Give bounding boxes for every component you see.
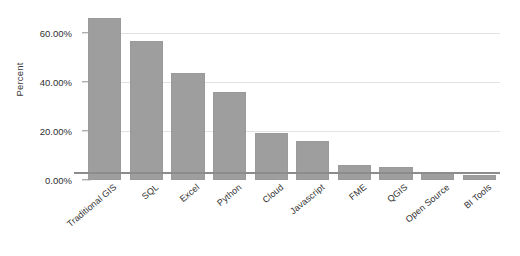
x-tick-label: Traditional GIS — [65, 182, 118, 229]
x-axis-labels: Traditional GISSQLExcelPythonCloudJavasc… — [84, 182, 500, 256]
y-axis-ticks: 0.00%20.00%40.00%60.00% — [8, 8, 72, 180]
bar — [171, 73, 204, 180]
x-tick-label: SQL — [140, 182, 160, 201]
x-tick-label: Cloud — [260, 182, 285, 205]
y-tick-label: 20.00% — [12, 125, 72, 136]
x-tick-label: Excel — [178, 182, 202, 204]
x-tick-label: BI Tools — [461, 182, 492, 211]
bar — [296, 141, 329, 180]
y-tick-label: 60.00% — [12, 27, 72, 38]
x-tick-label: Python — [215, 182, 243, 208]
x-axis-line — [74, 172, 500, 174]
bar — [88, 18, 121, 180]
bar-series — [84, 8, 500, 180]
bar — [213, 92, 246, 180]
bar — [421, 173, 454, 180]
y-tick-label: 40.00% — [12, 76, 72, 87]
bar — [463, 175, 496, 180]
bar — [130, 41, 163, 180]
y-tick-label: 0.00% — [12, 175, 72, 186]
x-tick-label: Javascript — [288, 182, 326, 216]
x-tick-label: Open Source — [403, 182, 451, 224]
x-tick-label: FME — [347, 182, 368, 202]
x-tick-label: QGIS — [386, 182, 410, 204]
bar-chart: Percent 0.00%20.00%40.00%60.00% Traditio… — [0, 0, 520, 256]
